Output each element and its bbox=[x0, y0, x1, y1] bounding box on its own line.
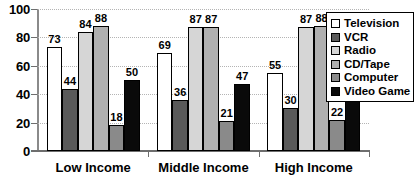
bar-value-label: 47 bbox=[236, 71, 248, 82]
bar-vcr-1: 36 bbox=[172, 100, 188, 151]
bar-video-game-2: 39 bbox=[345, 96, 361, 151]
bar-vcr-0: 44 bbox=[62, 89, 78, 151]
bar-value-label: 87 bbox=[205, 14, 217, 25]
bar-value-label: 88 bbox=[95, 13, 107, 24]
x-axis-label-1: Middle Income bbox=[148, 160, 258, 175]
legend-swatch-icon bbox=[331, 33, 340, 42]
bar-vcr-2: 30 bbox=[283, 108, 299, 151]
legend-item-television[interactable]: Television bbox=[331, 17, 410, 31]
bar-value-label: 30 bbox=[284, 95, 296, 106]
bar-video-game-1: 47 bbox=[234, 84, 250, 151]
y-tick-label-80: 80 bbox=[16, 30, 30, 45]
legend-item-label: Video Game bbox=[344, 86, 410, 98]
bar-group-low-income: 734484881850 bbox=[38, 9, 148, 151]
bar-value-label: 22 bbox=[331, 107, 343, 118]
legend-item-vcr[interactable]: VCR bbox=[331, 31, 410, 45]
y-tick-label-40: 40 bbox=[16, 87, 30, 102]
bar-television-1: 69 bbox=[157, 53, 173, 151]
x-axis-group-separator-2 bbox=[259, 150, 260, 157]
legend-item-label: Radio bbox=[344, 45, 376, 57]
bar-television-2: 55 bbox=[267, 73, 283, 151]
legend-item-label: CD/Tape bbox=[344, 59, 390, 71]
legend-item-label: Television bbox=[344, 18, 399, 30]
bar-value-label: 18 bbox=[110, 112, 122, 123]
bar-radio-2: 87 bbox=[298, 27, 314, 151]
x-axis-end-tick bbox=[369, 150, 370, 157]
bar-group-middle-income: 693687872147 bbox=[148, 9, 258, 151]
legend-item-video-game[interactable]: Video Game bbox=[331, 85, 410, 99]
bar-cd-tape-0: 88 bbox=[93, 26, 109, 151]
legend-item-cd-tape[interactable]: CD/Tape bbox=[331, 58, 410, 72]
bar-value-label: 50 bbox=[126, 67, 138, 78]
chart-legend: TelevisionVCRRadioCD/TapeComputerVideo G… bbox=[326, 12, 414, 102]
y-tick-label-0: 0 bbox=[23, 144, 30, 159]
x-axis-group-separator-1 bbox=[148, 150, 149, 157]
legend-item-computer[interactable]: Computer bbox=[331, 71, 410, 85]
y-tick-label-20: 20 bbox=[16, 115, 30, 130]
bar-cd-tape-1: 87 bbox=[203, 27, 219, 151]
x-axis-label-2: High Income bbox=[259, 160, 369, 175]
bar-video-game-0: 50 bbox=[124, 80, 140, 151]
legend-swatch-icon bbox=[331, 46, 340, 55]
bar-value-label: 87 bbox=[190, 14, 202, 25]
y-tick-label-100: 100 bbox=[9, 2, 30, 17]
bar-computer-0: 18 bbox=[109, 125, 125, 151]
bar-value-label: 87 bbox=[300, 14, 312, 25]
y-axis: 100806040200 bbox=[0, 0, 34, 156]
legend-swatch-icon bbox=[331, 19, 340, 28]
bar-value-label: 69 bbox=[159, 40, 171, 51]
legend-item-radio[interactable]: Radio bbox=[331, 44, 410, 58]
bar-computer-1: 21 bbox=[219, 121, 235, 151]
x-axis-label-0: Low Income bbox=[38, 160, 148, 175]
bar-value-label: 44 bbox=[64, 76, 76, 87]
legend-item-label: Computer bbox=[344, 72, 398, 84]
legend-swatch-icon bbox=[331, 87, 340, 96]
bar-computer-2: 22 bbox=[329, 120, 345, 151]
legend-swatch-icon bbox=[331, 73, 340, 82]
bar-value-label: 36 bbox=[174, 87, 186, 98]
bar-radio-1: 87 bbox=[188, 27, 204, 151]
bar-radio-0: 84 bbox=[78, 32, 94, 151]
bar-value-label: 73 bbox=[48, 34, 60, 45]
plot-area: 734484881850693687872147553087882239 bbox=[38, 9, 369, 151]
y-tick-label-60: 60 bbox=[16, 58, 30, 73]
bar-value-label: 21 bbox=[221, 108, 233, 119]
bar-chart: 100806040200 734484881850693687872147553… bbox=[0, 0, 414, 192]
bar-value-label: 84 bbox=[79, 19, 91, 30]
bar-value-label: 55 bbox=[269, 60, 281, 71]
legend-swatch-icon bbox=[331, 60, 340, 69]
legend-item-label: VCR bbox=[344, 32, 368, 44]
bar-television-0: 73 bbox=[47, 47, 63, 151]
